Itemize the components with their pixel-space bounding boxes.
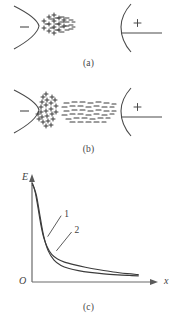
panel-b: (b) <box>0 84 177 170</box>
anode-electrode-a <box>121 4 131 52</box>
charge-cloud-a <box>42 13 75 35</box>
panel-a: (a) <box>0 0 177 82</box>
panel-c-caption: (c) <box>0 302 177 312</box>
anode-plus-sign-a <box>134 20 141 27</box>
panel-b-caption: (b) <box>0 144 177 154</box>
panel-c: E x O 1 2 (c) <box>0 170 177 322</box>
panel-a-drawing <box>0 0 177 58</box>
curve-series-1 <box>32 183 139 275</box>
x-axis-label: x <box>164 275 168 286</box>
origin-label: O <box>19 275 26 286</box>
panel-b-drawing <box>0 84 177 144</box>
y-axis-arrowhead <box>29 174 35 182</box>
panel-a-caption: (a) <box>0 58 177 68</box>
electron-cloud-b <box>62 102 116 122</box>
curve-series-2 <box>32 185 139 276</box>
y-axis-label: E <box>22 171 28 182</box>
leader-line-series-1 <box>48 216 62 237</box>
leader-line-series-2 <box>56 232 71 251</box>
anode-electrode-b <box>121 88 131 136</box>
x-axis-arrowhead <box>150 279 158 285</box>
physics-figure: (a) <box>0 0 177 322</box>
field-decay-chart <box>0 170 177 300</box>
curve-1-label: 1 <box>64 209 69 219</box>
curve-2-label: 2 <box>75 225 80 235</box>
anode-plus-sign-b <box>134 104 141 111</box>
